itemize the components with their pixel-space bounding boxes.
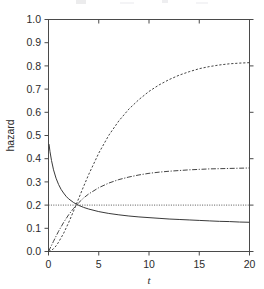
hazard-chart: 1.0 0.9 0.8 0.7 0.6 0.5 0.4 0.3 0.2 0.1 …: [0, 0, 264, 289]
y-axis-title: hazard: [4, 119, 16, 151]
y-tick-label: 1.0: [26, 13, 41, 25]
y-tick-label: 0.4: [26, 152, 41, 164]
x-tick-label: 15: [193, 258, 205, 270]
x-tick-label: 5: [96, 258, 102, 270]
y-tick-label: 0.5: [26, 129, 41, 141]
y-tick-label: 0.7: [26, 83, 41, 95]
y-tick-label: 0.6: [26, 106, 41, 118]
y-tick-label: 0.9: [26, 36, 41, 48]
y-tick-label: 0.1: [26, 222, 41, 234]
x-tick-label: 0: [46, 258, 52, 270]
x-tick-label: 10: [143, 258, 155, 270]
y-tick-label: 0.3: [26, 176, 41, 188]
y-tick-label: 0.2: [26, 199, 41, 211]
y-tick-label: 0.0: [26, 245, 41, 257]
x-tick-label: 20: [244, 258, 256, 270]
y-tick-label: 0.8: [26, 60, 41, 72]
